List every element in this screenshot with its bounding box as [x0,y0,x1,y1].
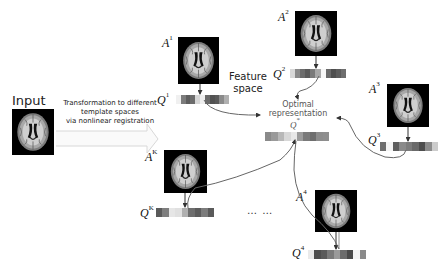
feature-space-line: space [229,83,267,95]
atlas-k-brain-image [164,150,207,193]
q-star-sup: * [297,116,301,124]
brain-slice-icon [295,11,337,56]
feature-cell [224,95,229,104]
atlas-k-label: AK [145,151,157,163]
atlas-3-feature-vector [380,142,438,151]
atlas-3-brain-image [387,84,429,127]
brain-slice-icon [164,150,207,193]
brain-slice-icon [12,109,54,155]
transform-caption: Transformation to different template spa… [56,99,164,126]
brain-slice-icon [178,37,219,84]
qk-label: QK [140,207,154,219]
atlas-4-label: A4 [296,191,307,203]
q-symbol: Q [368,133,377,147]
q-star-symbol: Q [290,120,297,130]
curve-q2-to-optimal [297,76,319,99]
transform-caption-line: template spaces [56,108,164,117]
q-index: 4 [301,244,305,252]
atlas-4-feature-vector [308,250,366,259]
transform-caption-line: via nonlinear registration [56,117,164,126]
optimal-feature-vector [265,132,329,141]
transform-caption-line: Transformation to different [56,99,164,108]
atlas-index: 4 [303,188,307,196]
q-index: 3 [377,131,381,139]
feature-cell [341,69,346,78]
q-index: 1 [166,91,170,99]
feature-cell [208,208,214,217]
q-index: K [149,204,154,212]
q4-label: Q4 [292,247,304,259]
atlas-index: 1 [169,34,173,42]
q2-label: Q2 [273,68,285,80]
optimal-line: Optimal [266,100,330,109]
atlas-1-feature-vector [176,95,229,104]
atlas-2-feature-vector [290,69,346,78]
atlas-1-brain-image [178,37,219,84]
q-symbol: Q [140,206,149,220]
ellipsis: … … [247,205,273,216]
atlas-2-label: A2 [278,11,289,23]
brain-slice-icon [315,190,357,232]
brain-slice-icon [387,84,429,127]
q1-label: Q1 [157,94,169,106]
q-symbol: Q [273,67,282,81]
feature-cell [360,250,366,259]
feature-cell [323,132,329,141]
input-brain-image [12,109,54,155]
q-symbol: Q [157,93,166,107]
q3-label: Q3 [368,134,380,146]
input-label: Input [12,93,46,108]
atlas-k-feature-vector [156,208,214,217]
q-star-label: Q* [290,119,300,130]
atlas-4-brain-image [315,190,357,232]
atlas-index: K [152,148,157,156]
atlas-index: 3 [376,80,380,88]
atlas-index: 2 [285,8,289,16]
atlas-registration-diagram: Input Transformation to different templa… [0,0,444,270]
transform-arrow-icon [56,124,158,153]
atlas-1-label: A1 [162,37,173,49]
q-index: 2 [282,65,286,73]
feature-cell [432,142,438,151]
atlas-2-brain-image [295,11,337,56]
feature-space-label: Feature space [229,71,267,95]
q-symbol: Q [292,246,301,260]
atlas-3-label: A3 [369,83,380,95]
feature-space-line: Feature [229,71,267,83]
